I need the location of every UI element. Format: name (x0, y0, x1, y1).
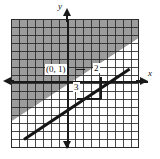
point-callout-leader (76, 69, 85, 70)
y-axis-label: y (58, 2, 62, 11)
x-axis-label: x (148, 69, 152, 78)
x-axis-left-arrow-icon (3, 77, 11, 85)
run-label: 3 (73, 82, 80, 92)
rise-label: 2 (93, 63, 100, 73)
x-axis-right-arrow-icon (140, 77, 148, 85)
y-axis-up-arrow-icon (63, 8, 71, 16)
y-intercept-label: (0, 1) (45, 64, 67, 75)
inequality-graph-figure: y x (0, 1) 2 3 (0, 0, 160, 159)
y-axis-down-arrow-icon (63, 141, 71, 149)
